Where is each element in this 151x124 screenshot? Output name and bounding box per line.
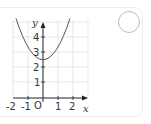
x-tick-neg2: -2 [6, 101, 16, 112]
y-tick-4: 4 [33, 32, 39, 43]
origin-label: O [34, 100, 42, 111]
y-tick-1: 1 [34, 77, 40, 88]
x-axis-arrow-icon [82, 96, 88, 101]
x-axis-label: x [83, 103, 89, 114]
y-tick-2: 2 [33, 62, 39, 73]
grid [13, 20, 88, 98]
x-tick-neg1: -1 [21, 101, 31, 112]
x-tick-2: 2 [69, 101, 75, 112]
y-axis-arrow-icon [41, 22, 46, 28]
x-tick-1: 1 [55, 101, 61, 112]
y-tick-3: 3 [33, 47, 39, 58]
y-axis-label: y [31, 17, 38, 28]
option-radio-button[interactable] [118, 11, 140, 33]
